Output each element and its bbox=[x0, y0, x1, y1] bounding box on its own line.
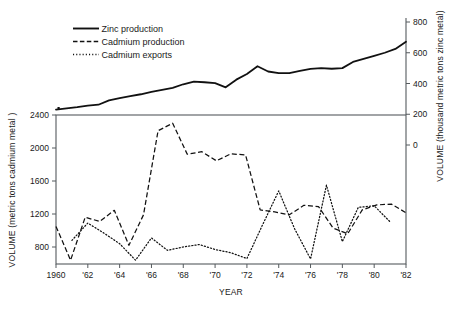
right-tick-label-200: 200 bbox=[413, 109, 427, 119]
left-tick-label-2000: 2000 bbox=[30, 143, 49, 153]
x-tick-label-1978: '78 bbox=[337, 270, 348, 280]
series-line-cadmium-production bbox=[56, 123, 406, 260]
right-axis-ticks: 0200400600800 bbox=[406, 17, 427, 150]
right-tick-label-800: 800 bbox=[413, 17, 427, 27]
chart-legend: Zinc production Cadmium production Cadmi… bbox=[73, 24, 185, 60]
plot-frame bbox=[56, 115, 406, 264]
x-axis-ticks: 1960'62'64'66'68'70'72'74'76'78'80'82 bbox=[47, 264, 412, 280]
left-tick-label-2400: 2400 bbox=[30, 110, 49, 120]
legend-label-zinc-production: Zinc production bbox=[102, 24, 164, 34]
x-tick-label-1980: '80 bbox=[369, 270, 380, 280]
x-tick-label-1970: '70 bbox=[210, 270, 221, 280]
legend-label-cadmium-production: Cadmium production bbox=[102, 37, 185, 47]
x-tick-label-1982: '82 bbox=[400, 270, 411, 280]
x-tick-label-1962: '62 bbox=[82, 270, 93, 280]
chart-figure: 0200400600800 8001200160020002400 1960'6… bbox=[0, 0, 454, 310]
x-tick-label-1972: '72 bbox=[241, 270, 252, 280]
chart-canvas: 0200400600800 8001200160020002400 1960'6… bbox=[0, 0, 454, 310]
right-axis-title: VOLUME (thousand metric tons zinc metal) bbox=[435, 10, 445, 181]
left-axis-title: VOLUME (metric tons cadmium metal ) bbox=[7, 113, 17, 268]
x-tick-label-1960: 1960 bbox=[47, 270, 66, 280]
x-tick-label-1976: '76 bbox=[305, 270, 316, 280]
right-tick-label-400: 400 bbox=[413, 79, 427, 89]
x-tick-label-1974: '74 bbox=[273, 270, 284, 280]
right-tick-label-0: 0 bbox=[413, 140, 418, 150]
x-tick-label-1966: '66 bbox=[146, 270, 157, 280]
left-tick-label-1600: 1600 bbox=[30, 176, 49, 186]
x-tick-label-1968: '68 bbox=[178, 270, 189, 280]
left-axis-ticks: 8001200160020002400 bbox=[30, 110, 56, 252]
right-tick-label-600: 600 bbox=[413, 48, 427, 58]
legend-label-cadmium-exports: Cadmium exports bbox=[102, 50, 173, 60]
left-tick-label-800: 800 bbox=[35, 242, 49, 252]
x-axis-title: YEAR bbox=[219, 287, 243, 297]
x-tick-label-1964: '64 bbox=[114, 270, 125, 280]
series-line-cadmium-exports bbox=[72, 185, 390, 260]
left-tick-label-1200: 1200 bbox=[30, 209, 49, 219]
